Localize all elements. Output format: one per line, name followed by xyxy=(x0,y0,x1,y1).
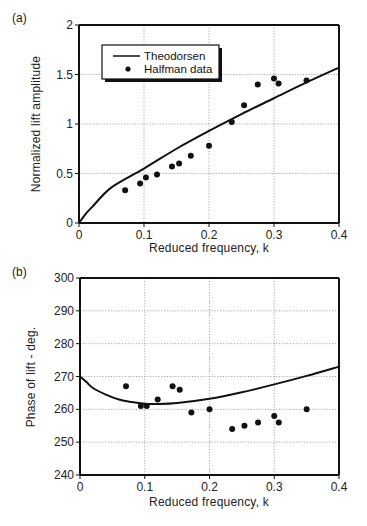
data-point xyxy=(255,419,261,425)
data-point xyxy=(271,75,277,81)
data-point xyxy=(169,164,175,170)
y-tick-label: 1 xyxy=(66,117,73,131)
x-tick-label: 0 xyxy=(76,228,83,242)
panel-label-a: (a) xyxy=(12,11,27,25)
data-point xyxy=(154,171,160,177)
x-tick-label: 0.4 xyxy=(331,480,348,494)
y-tick-label: 260 xyxy=(54,402,74,416)
figure-caption-cutoff xyxy=(12,518,362,526)
y-axis-label-b: Phase of lift - deg. xyxy=(24,327,38,428)
data-point xyxy=(276,419,282,425)
y-tick-label: 0 xyxy=(66,216,73,230)
data-point xyxy=(206,143,212,149)
x-tick-label: 0.2 xyxy=(201,480,218,494)
figure: (a) 00.10.20.30.400.511.52 Reduced frequ… xyxy=(0,0,367,526)
y-tick-label: 0.5 xyxy=(56,167,73,181)
data-point xyxy=(241,423,247,429)
chart-panel-a: (a) 00.10.20.30.400.511.52 Reduced frequ… xyxy=(12,11,348,255)
data-point xyxy=(138,403,144,409)
x-tick-label: 0.2 xyxy=(201,228,218,242)
data-point xyxy=(229,119,235,125)
data-point xyxy=(276,80,282,86)
data-point xyxy=(144,403,150,409)
y-tick-label: 240 xyxy=(54,468,74,482)
data-point xyxy=(304,77,310,83)
y-tick-label: 300 xyxy=(54,271,74,285)
panel-label-b: (b) xyxy=(12,265,27,279)
x-axis-label-a: Reduced frequency, k xyxy=(149,241,270,255)
data-point xyxy=(188,153,194,159)
halfman-points-a xyxy=(122,75,309,193)
data-point xyxy=(241,102,247,108)
halfman-points-b xyxy=(123,383,310,432)
tick-labels-b: 00.10.20.30.4240250260270280290300 xyxy=(54,271,348,494)
data-point xyxy=(271,413,277,419)
x-tick-label: 0.4 xyxy=(331,228,348,242)
data-point xyxy=(123,383,129,389)
data-point xyxy=(176,161,182,167)
data-point xyxy=(229,426,235,432)
x-tick-label: 0.1 xyxy=(136,480,153,494)
x-tick-label: 0.1 xyxy=(136,228,153,242)
data-point xyxy=(255,81,261,87)
chart-panel-b: (b) 00.10.20.30.4240250260270280290300 R… xyxy=(12,265,348,509)
x-tick-label: 0.3 xyxy=(266,228,283,242)
legend: Theodorsen Halfman data xyxy=(102,45,222,82)
y-tick-label: 280 xyxy=(54,337,74,351)
data-point xyxy=(177,387,183,393)
y-tick-label: 270 xyxy=(54,370,74,384)
data-point xyxy=(155,396,161,402)
legend-label-theodorsen: Theodorsen xyxy=(144,50,205,62)
x-tick-label: 0.3 xyxy=(266,480,283,494)
y-axis-label-a: Normalized lift amplitude xyxy=(29,56,43,193)
data-point xyxy=(143,174,149,180)
legend-label-halfman: Halfman data xyxy=(144,63,213,75)
y-tick-label: 2 xyxy=(66,18,73,32)
data-point xyxy=(122,187,128,193)
data-point xyxy=(304,406,310,412)
y-tick-label: 250 xyxy=(54,435,74,449)
x-axis-label-b: Reduced frequency, k xyxy=(149,495,270,509)
gridlines-b xyxy=(80,278,339,475)
y-tick-label: 1.5 xyxy=(56,68,73,82)
y-tick-label: 290 xyxy=(54,304,74,318)
data-point xyxy=(170,383,176,389)
data-point xyxy=(207,406,213,412)
legend-dot-swatch xyxy=(125,66,130,71)
data-point xyxy=(188,410,194,416)
data-point xyxy=(137,180,143,186)
x-tick-label: 0 xyxy=(77,480,84,494)
